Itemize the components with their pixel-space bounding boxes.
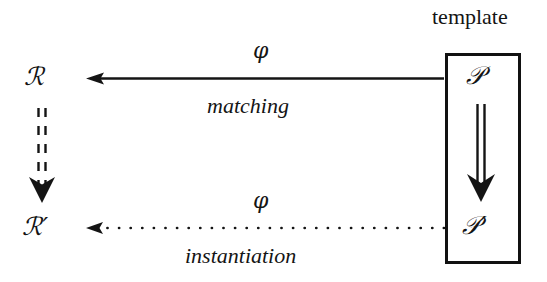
bottom-edge-map-label: φ xyxy=(253,190,268,212)
top-edge-name-label: matching xyxy=(207,95,289,117)
bottom-horizontal-arrow xyxy=(86,222,444,234)
left-vertical-double-dotted-arrow xyxy=(29,108,55,203)
commutative-diagram: template ℛ ℛ′ 𝒫 𝒫′ φ matching φ instanti… xyxy=(0,0,547,282)
node-source-bottom: ℛ′ xyxy=(22,214,49,239)
bottom-edge-name-label: instantiation xyxy=(185,245,296,267)
top-edge-map-label: φ xyxy=(253,40,268,62)
node-pattern-top: 𝒫 xyxy=(466,63,485,88)
node-source-top: ℛ xyxy=(24,64,45,89)
template-caption: template xyxy=(432,6,508,28)
top-horizontal-arrow xyxy=(86,73,444,85)
node-pattern-bottom: 𝒫′ xyxy=(462,213,487,238)
